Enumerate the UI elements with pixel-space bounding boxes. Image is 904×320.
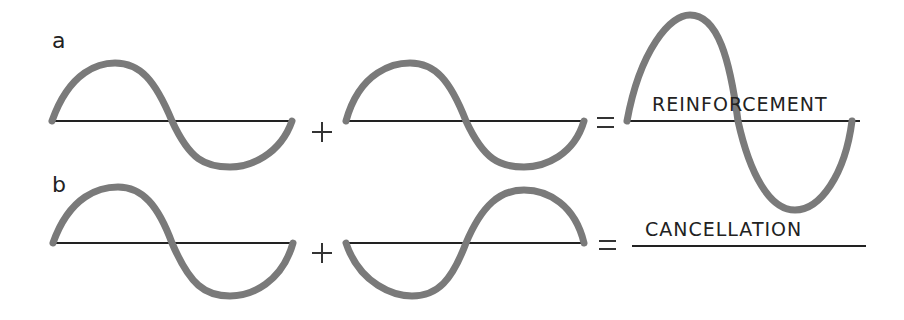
cancellation-caption: CANCELLATION: [645, 218, 802, 240]
interference-diagram: a + = REINFORCEMENT b + = CANCELLATION: [0, 0, 904, 320]
row-a-label: a: [52, 28, 65, 53]
row-a-wave2: [346, 63, 584, 167]
row-b-label: b: [52, 172, 66, 197]
row-b-wave1: [53, 187, 293, 296]
reinforcement-caption: REINFORCEMENT: [652, 93, 828, 115]
row-a-wave1: [52, 63, 292, 167]
